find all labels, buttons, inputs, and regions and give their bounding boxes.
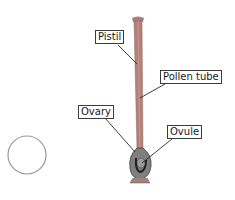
label-pistil: Pistil bbox=[95, 30, 124, 44]
empty-circle-icon[interactable] bbox=[8, 136, 46, 174]
ovary-leader bbox=[105, 118, 135, 152]
ovule-shape bbox=[137, 158, 145, 168]
pollen-tube-leader bbox=[140, 84, 165, 98]
label-ovule: Ovule bbox=[167, 125, 202, 139]
label-pollen-tube: Pollen tube bbox=[160, 70, 222, 84]
pistil-leader bbox=[118, 45, 137, 64]
label-ovary: Ovary bbox=[78, 105, 114, 119]
